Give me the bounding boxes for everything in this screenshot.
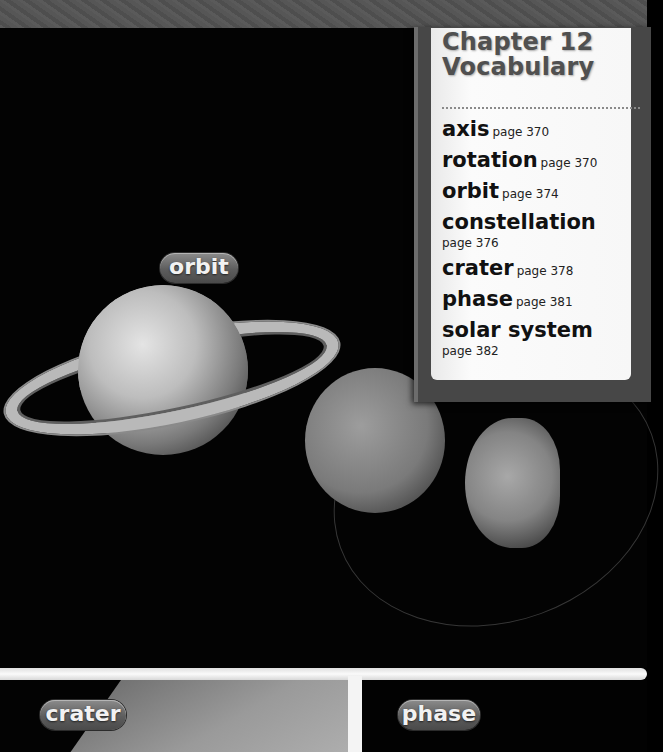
vocab-term: rotation <box>442 148 538 172</box>
vocab-term: solar system <box>442 318 593 342</box>
phase-label-text: phase <box>402 701 476 726</box>
crater-label-pill[interactable]: crater <box>40 700 126 730</box>
vocab-page-ref: page 378 <box>517 264 574 278</box>
vocabulary-list: axispage 370 rotationpage 370 orbitpage … <box>442 118 637 365</box>
vocab-item-phase[interactable]: phasepage 381 <box>442 288 637 313</box>
vocab-item-solar-system[interactable]: solar systempage 382 <box>442 319 637 359</box>
horizontal-divider-bar <box>0 668 647 680</box>
vocab-item-axis[interactable]: axispage 370 <box>442 118 637 143</box>
top-texture-band <box>0 0 647 29</box>
orbit-label-pill[interactable]: orbit <box>160 253 238 283</box>
vocab-page-ref: page 382 <box>442 343 637 359</box>
vocab-item-crater[interactable]: craterpage 378 <box>442 257 637 282</box>
crater-label-text: crater <box>45 701 120 726</box>
dotted-divider <box>442 107 640 109</box>
vocabulary-title-line2: Vocabulary <box>442 55 632 80</box>
vocab-term: orbit <box>442 179 499 203</box>
vocab-page-ref: page 376 <box>442 235 637 251</box>
vocab-term: axis <box>442 117 489 141</box>
neptune-planet <box>465 418 560 548</box>
orbit-label-text: orbit <box>169 254 229 279</box>
vocab-page-ref: page 374 <box>502 187 559 201</box>
vocab-item-constellation[interactable]: constellationpage 376 <box>442 211 637 251</box>
vocabulary-title: Chapter 12 Vocabulary <box>442 30 632 80</box>
vertical-divider-bar <box>348 676 362 752</box>
vocab-term: crater <box>442 256 514 280</box>
phase-label-pill[interactable]: phase <box>398 700 480 730</box>
vocab-item-orbit[interactable]: orbitpage 374 <box>442 180 637 205</box>
vocab-item-rotation[interactable]: rotationpage 370 <box>442 149 637 174</box>
vocab-page-ref: page 381 <box>516 295 573 309</box>
vocab-term: phase <box>442 287 513 311</box>
vocab-page-ref: page 370 <box>541 156 598 170</box>
vocabulary-title-line1: Chapter 12 <box>442 30 632 55</box>
vocab-term: constellation <box>442 210 596 234</box>
vocab-page-ref: page 370 <box>492 125 549 139</box>
